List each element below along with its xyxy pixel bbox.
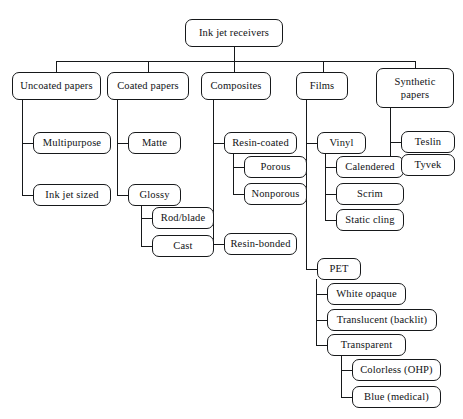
node-synthetic-papers[interactable]: Synthetic papers xyxy=(376,68,454,108)
edge-composites-to-resinbonded xyxy=(213,244,224,245)
diagram-canvas: Ink jet receivers Uncoated papers Coated… xyxy=(0,0,463,419)
node-uncoated-papers[interactable]: Uncoated papers xyxy=(12,72,101,100)
node-white-opaque[interactable]: White opaque xyxy=(327,283,406,305)
edge-coated-to-glossy xyxy=(117,195,128,196)
edge-resincoated-to-porous xyxy=(233,167,244,168)
edge-resincoated-spine xyxy=(233,153,234,195)
edge-transparent-spine xyxy=(341,355,342,398)
edge-vinyl-to-staticcling xyxy=(325,220,336,221)
node-static-cling[interactable]: Static cling xyxy=(336,209,404,231)
edge-coated-to-matte xyxy=(117,143,128,144)
edge-uncoated-to-inkjetsized xyxy=(22,195,33,196)
edge-films-to-pet xyxy=(306,269,317,270)
edge-pet-to-transparent xyxy=(316,345,327,346)
edge-drop-coated xyxy=(148,61,149,72)
edge-drop-composites xyxy=(234,61,235,72)
node-colorless-ohp[interactable]: Colorless (OHP) xyxy=(352,359,441,381)
node-transparent[interactable]: Transparent xyxy=(327,334,406,356)
edge-films-spine xyxy=(306,100,307,270)
node-films[interactable]: Films xyxy=(296,72,348,100)
node-cast[interactable]: Cast xyxy=(152,235,214,257)
edge-films-to-vinyl xyxy=(306,143,317,144)
edge-pet-spine xyxy=(316,279,317,346)
edge-level1-bus xyxy=(56,61,416,62)
node-root[interactable]: Ink jet receivers xyxy=(185,19,283,47)
node-blue-medical[interactable]: Blue (medical) xyxy=(352,386,441,408)
edge-transparent-to-colorless xyxy=(341,370,352,371)
edge-drop-uncoated xyxy=(56,61,57,72)
edge-drop-films xyxy=(323,61,324,72)
node-resin-coated[interactable]: Resin-coated xyxy=(224,132,297,154)
edge-pet-to-translucent xyxy=(316,320,327,321)
node-teslin[interactable]: Teslin xyxy=(401,131,455,153)
edge-uncoated-spine xyxy=(22,100,23,196)
node-vinyl[interactable]: Vinyl xyxy=(317,132,366,154)
edge-glossy-to-rodblade xyxy=(141,218,152,219)
edge-root-stem xyxy=(234,47,235,61)
edge-coated-spine xyxy=(117,100,118,196)
edge-composites-to-resincoated xyxy=(213,143,224,144)
node-matte[interactable]: Matte xyxy=(128,132,181,154)
node-pet[interactable]: PET xyxy=(317,258,361,280)
node-ink-jet-sized[interactable]: Ink jet sized xyxy=(33,184,111,206)
node-composites[interactable]: Composites xyxy=(201,72,271,100)
edge-glossy-to-cast xyxy=(141,246,152,247)
node-calendered[interactable]: Calendered xyxy=(336,156,404,178)
node-resin-bonded[interactable]: Resin-bonded xyxy=(224,233,297,255)
edge-vinyl-spine xyxy=(325,153,326,221)
node-glossy[interactable]: Glossy xyxy=(128,184,181,206)
edge-resincoated-to-nonporous xyxy=(233,194,244,195)
node-translucent-backlit[interactable]: Translucent (backlit) xyxy=(327,309,437,331)
edge-vinyl-to-calendered xyxy=(325,167,336,168)
node-coated-papers[interactable]: Coated papers xyxy=(107,72,189,100)
edge-vinyl-to-scrim xyxy=(325,194,336,195)
node-porous[interactable]: Porous xyxy=(244,156,307,178)
edge-transparent-to-blue xyxy=(341,397,352,398)
edge-synthetic-to-teslin xyxy=(390,142,401,143)
node-nonporous[interactable]: Nonporous xyxy=(244,183,307,205)
node-scrim[interactable]: Scrim xyxy=(336,183,404,205)
node-rod-blade[interactable]: Rod/blade xyxy=(152,207,214,229)
node-multipurpose[interactable]: Multipurpose xyxy=(33,132,111,154)
node-tyvek[interactable]: Tyvek xyxy=(401,154,455,176)
edge-uncoated-to-multipurpose xyxy=(22,143,33,144)
edge-glossy-spine xyxy=(141,205,142,247)
edge-pet-to-whiteopaque xyxy=(316,294,327,295)
